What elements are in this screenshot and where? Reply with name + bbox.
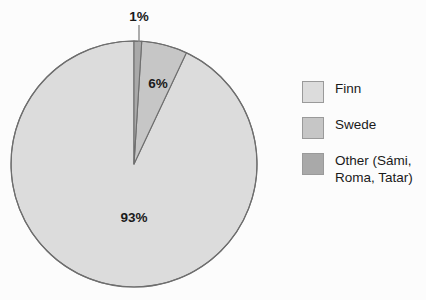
legend-item-finn[interactable]: Finn xyxy=(302,80,426,103)
legend-label-swede: Swede xyxy=(335,116,376,133)
pie-label-swede: 6% xyxy=(148,76,168,91)
legend-swatch-swede xyxy=(302,117,324,139)
legend: Finn Swede Other (Sámi, Roma, Tatar) xyxy=(302,80,426,199)
pie-label-other: 1% xyxy=(129,9,149,24)
pie-label-finn: 93% xyxy=(120,210,147,225)
legend-item-swede[interactable]: Swede xyxy=(302,116,426,139)
legend-item-other[interactable]: Other (Sámi, Roma, Tatar) xyxy=(302,152,426,186)
legend-label-finn: Finn xyxy=(335,80,361,97)
legend-label-other: Other (Sámi, Roma, Tatar) xyxy=(335,152,413,186)
legend-swatch-other xyxy=(302,153,324,175)
pie-chart-figure: 1% 6% 93% Finn Swede Other (Sámi, Roma, … xyxy=(0,0,426,300)
legend-swatch-finn xyxy=(302,81,324,103)
